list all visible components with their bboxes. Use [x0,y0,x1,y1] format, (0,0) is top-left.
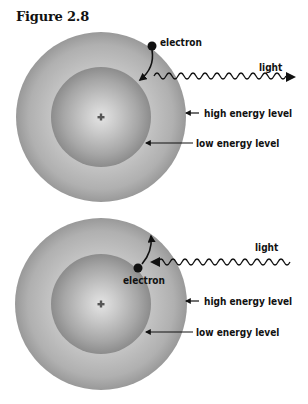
electron-dot [134,264,143,273]
electron-label: electron [123,275,165,286]
electron-label: electron [160,37,202,48]
high-energy-label: high energy level [204,108,292,119]
atom-top: electron light high energy level low ene… [16,32,296,202]
light-label: light [255,242,279,253]
low-energy-label: low energy level [196,327,279,338]
low-energy-label: low energy level [196,138,279,149]
light-arrow-icon [286,72,296,82]
light-label: light [259,62,283,73]
high-energy-label: high energy level [204,296,292,307]
electron-dot [148,42,157,51]
atom-bottom: electron light high energy level low ene… [15,218,292,390]
light-wave [158,259,290,265]
atom-diagram: electron light high energy level low ene… [0,0,308,404]
